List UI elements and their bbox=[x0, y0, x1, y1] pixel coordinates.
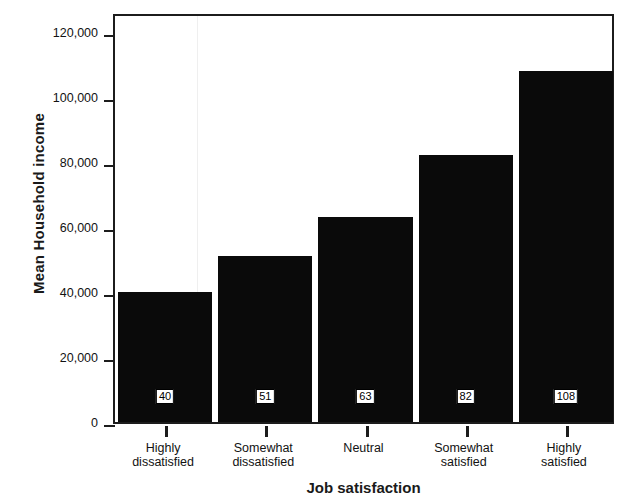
y-axis-tick-label: 0 bbox=[0, 416, 98, 430]
x-axis-tick bbox=[566, 426, 569, 437]
x-axis-tick-label-line2: dissatisfied bbox=[132, 455, 194, 469]
y-axis-tick bbox=[104, 165, 115, 167]
y-axis-tick bbox=[104, 35, 115, 37]
x-axis-tick-label-line2: dissatisfied bbox=[232, 455, 294, 469]
x-axis-tick-label: Somewhatdissatisfied bbox=[232, 441, 294, 469]
bar-value-label: 82 bbox=[457, 389, 475, 404]
bar: 108 bbox=[519, 71, 613, 422]
bar-value-label: 51 bbox=[256, 389, 274, 404]
y-axis-tick bbox=[104, 230, 115, 232]
x-axis-tick-label-line1: Neutral bbox=[343, 441, 383, 455]
plot-area: 40516382108 bbox=[113, 14, 614, 424]
y-axis-tick-label: 20,000 bbox=[0, 351, 98, 365]
bar-value-label: 63 bbox=[356, 389, 374, 404]
x-axis-tick bbox=[165, 426, 168, 437]
y-axis-tick-label: 120,000 bbox=[0, 26, 98, 40]
x-axis-tick-label-line1: Somewhat bbox=[434, 441, 493, 455]
x-axis-tick-label-line2: satisfied bbox=[434, 455, 493, 469]
bar: 63 bbox=[318, 217, 412, 422]
bar-chart: Mean Household income 120,000100,00080,0… bbox=[0, 0, 624, 501]
x-axis-tick-label-line1: Somewhat bbox=[232, 441, 294, 455]
y-axis-tick-label: 60,000 bbox=[0, 221, 98, 235]
x-axis-tick-label: Highlysatisfied bbox=[541, 441, 587, 469]
bar-value-label: 108 bbox=[554, 389, 578, 404]
x-axis-tick-label: Highlydissatisfied bbox=[132, 441, 194, 469]
x-axis-tick bbox=[265, 426, 268, 437]
y-axis-tick bbox=[104, 100, 115, 102]
x-axis-tick-label-line1: Highly bbox=[541, 441, 587, 455]
y-axis-tick bbox=[104, 360, 115, 362]
bar: 82 bbox=[419, 155, 513, 422]
y-axis-tick-label: 80,000 bbox=[0, 156, 98, 170]
y-axis-tick bbox=[104, 295, 115, 297]
x-axis-title: Job satisfaction bbox=[113, 479, 614, 496]
bar: 40 bbox=[118, 292, 212, 422]
x-axis-tick-labels: HighlydissatisfiedSomewhatdissatisfiedNe… bbox=[113, 441, 614, 481]
x-axis-tick-label-line2: satisfied bbox=[541, 455, 587, 469]
bar-value-label: 40 bbox=[156, 389, 174, 404]
bar: 51 bbox=[218, 256, 312, 422]
x-axis-tick-label-line1: Highly bbox=[132, 441, 194, 455]
y-axis-tick bbox=[104, 425, 115, 427]
x-axis-tick bbox=[366, 426, 369, 437]
y-axis-tick-label: 40,000 bbox=[0, 286, 98, 300]
x-axis-tick bbox=[466, 426, 469, 437]
x-axis-tick-label: Neutral bbox=[343, 441, 383, 455]
x-axis-tick-label: Somewhatsatisfied bbox=[434, 441, 493, 469]
y-axis-tick-label: 100,000 bbox=[0, 91, 98, 105]
